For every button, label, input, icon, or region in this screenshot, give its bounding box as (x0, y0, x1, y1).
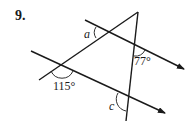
angle-arc-115 (51, 71, 73, 78)
angle-label-115: 115° (53, 79, 76, 93)
angle-arc-c (116, 93, 126, 111)
angle-arc-a (94, 27, 96, 38)
angle-label-a: a (84, 27, 90, 41)
geometry-diagram: a 77° 115° c (0, 0, 195, 125)
angle-label-c: c (109, 99, 115, 113)
angle-label-77: 77° (134, 54, 151, 68)
